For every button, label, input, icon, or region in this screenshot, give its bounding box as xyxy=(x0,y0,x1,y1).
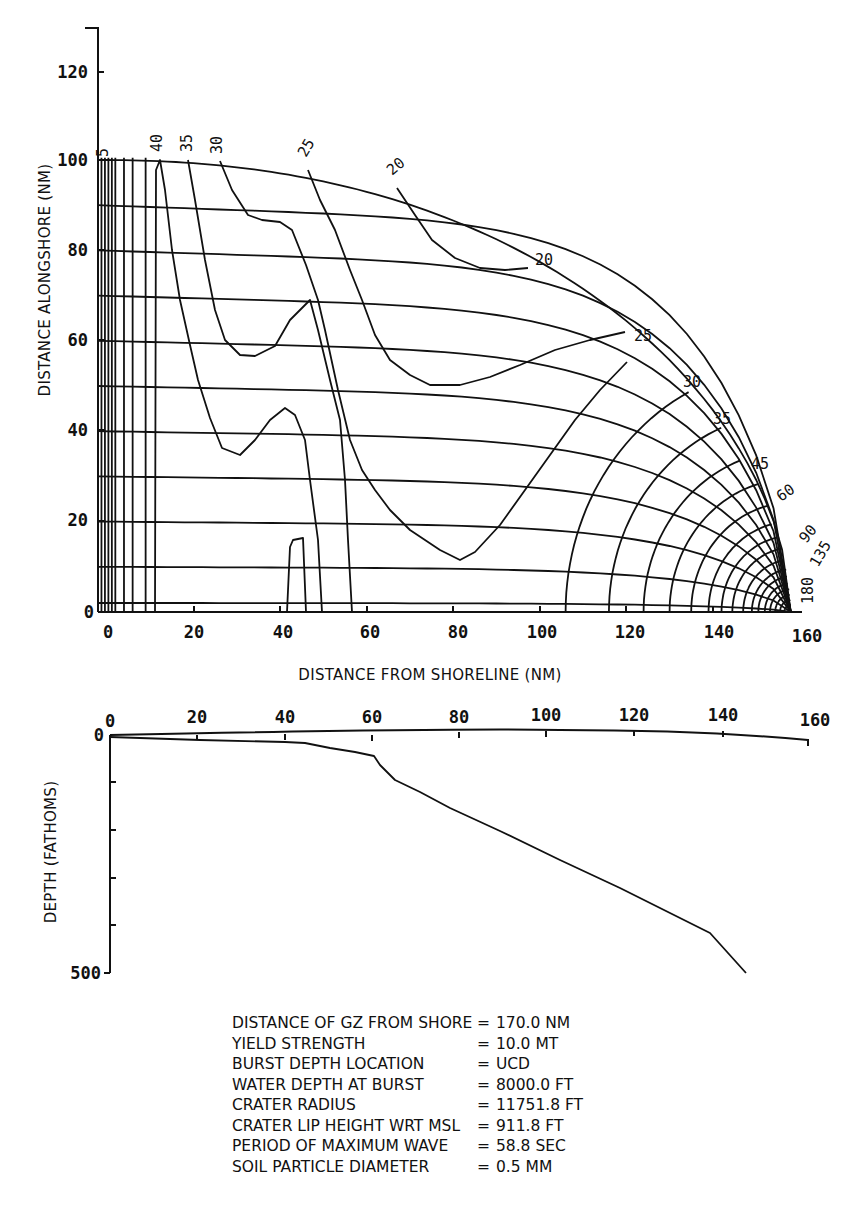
param-row: CRATER RADIUS= 11751.8 FT xyxy=(232,1095,583,1116)
x-tick-160: 160 xyxy=(792,626,823,646)
x-tick-40: 40 xyxy=(273,622,293,642)
depth-x-tick-140: 140 xyxy=(708,705,739,725)
top-chart-axes xyxy=(85,28,802,612)
param-equals: = xyxy=(477,1095,491,1116)
y-tick-60: 60 xyxy=(68,330,88,350)
contour-20 xyxy=(397,188,528,270)
y-tick-0: 0 xyxy=(84,602,94,622)
contour-40 xyxy=(155,160,322,612)
y-tick-120: 120 xyxy=(57,62,88,82)
depth-x-tick-0: 0 xyxy=(105,711,115,731)
contour-25 xyxy=(308,170,625,385)
contour-bump xyxy=(287,538,306,612)
param-equals: = xyxy=(477,1013,491,1034)
y-tick-80: 80 xyxy=(68,240,88,260)
depth-y-tick-500: 500 xyxy=(70,963,101,983)
arc-label-35: 35 xyxy=(713,410,731,428)
param-row: WATER DEPTH AT BURST= 8000.0 FT xyxy=(232,1075,583,1096)
arc-label-180: 180 xyxy=(799,577,817,604)
label-5: 5 xyxy=(94,148,112,157)
param-name: BURST DEPTH LOCATION xyxy=(232,1054,477,1075)
arc-label-20: 20 xyxy=(535,251,553,269)
top-y-tick-labels: 120 100 80 60 40 20 0 xyxy=(57,62,94,622)
param-name: SOIL PARTICLE DIAMETER xyxy=(232,1157,477,1178)
depth-x-tick-160: 160 xyxy=(800,710,831,730)
param-name: PERIOD OF MAXIMUM WAVE xyxy=(232,1136,477,1157)
label-35: 35 xyxy=(178,134,196,152)
param-name: WATER DEPTH AT BURST xyxy=(232,1075,477,1096)
x-tick-80: 80 xyxy=(448,622,468,642)
param-value: 58.8 SEC xyxy=(496,1136,566,1157)
arc-contour-labels: 20 25 30 35 45 60 90 135 180 xyxy=(535,251,835,604)
depth-chart-axes xyxy=(104,730,808,973)
param-equals: = xyxy=(477,1116,491,1137)
param-value: 11751.8 FT xyxy=(496,1095,583,1116)
param-name: YIELD STRENGTH xyxy=(232,1034,477,1055)
param-name: DISTANCE OF GZ FROM SHORE xyxy=(232,1013,477,1034)
top-contour-labels: 5 40 35 30 25 20 xyxy=(94,134,408,179)
param-name: CRATER RADIUS xyxy=(232,1095,477,1116)
depth-x-tick-20: 20 xyxy=(187,707,207,727)
depth-x-tick-100: 100 xyxy=(531,705,562,725)
label-25: 25 xyxy=(294,135,319,160)
arc-label-30: 30 xyxy=(683,373,701,391)
top-x-axis-title: DISTANCE FROM SHORELINE (NM) xyxy=(298,666,561,684)
x-tick-60: 60 xyxy=(360,622,380,642)
y-tick-100: 100 xyxy=(57,150,88,170)
param-value: 10.0 MT xyxy=(496,1034,558,1055)
param-value: 911.8 FT xyxy=(496,1116,563,1137)
contour-35 xyxy=(188,160,352,612)
label-30: 30 xyxy=(208,136,226,154)
arc-label-25: 25 xyxy=(634,327,652,345)
arc-label-60: 60 xyxy=(773,480,798,505)
y-tick-20: 20 xyxy=(68,510,88,530)
param-equals: = xyxy=(477,1075,491,1096)
param-row: CRATER LIP HEIGHT WRT MSL= 911.8 FT xyxy=(232,1116,583,1137)
param-row: PERIOD OF MAXIMUM WAVE= 58.8 SEC xyxy=(232,1136,583,1157)
param-row: SOIL PARTICLE DIAMETER= 0.5 MM xyxy=(232,1157,583,1178)
label-40: 40 xyxy=(148,134,166,152)
param-name: CRATER LIP HEIGHT WRT MSL xyxy=(232,1116,477,1137)
depth-x-tick-120: 120 xyxy=(619,705,650,725)
figure: 120 100 80 60 40 20 0 0 20 40 60 80 100 … xyxy=(0,0,859,1214)
label-20: 20 xyxy=(383,154,408,179)
depth-x-tick-40: 40 xyxy=(275,707,295,727)
param-equals: = xyxy=(477,1157,491,1178)
param-row: BURST DEPTH LOCATION= UCD xyxy=(232,1054,583,1075)
depth-x-tick-60: 60 xyxy=(362,707,382,727)
plot-canvas: 120 100 80 60 40 20 0 0 20 40 60 80 100 … xyxy=(0,0,859,1000)
depth-y-axis-title: DEPTH (FATHOMS) xyxy=(42,781,60,924)
x-tick-140: 140 xyxy=(704,622,735,642)
x-tick-20: 20 xyxy=(184,622,204,642)
param-equals: = xyxy=(477,1054,491,1075)
depth-y-tick-0: 0 xyxy=(94,725,104,745)
wave-contours xyxy=(155,160,627,612)
param-row: YIELD STRENGTH= 10.0 MT xyxy=(232,1034,583,1055)
param-value: 170.0 NM xyxy=(496,1013,570,1034)
y-tick-40: 40 xyxy=(68,420,88,440)
top-x-tick-labels: 0 20 40 60 80 100 120 140 160 xyxy=(103,622,822,646)
param-value: 0.5 MM xyxy=(496,1157,552,1178)
param-row: DISTANCE OF GZ FROM SHORE= 170.0 NM xyxy=(232,1013,583,1034)
param-value: UCD xyxy=(496,1054,530,1075)
param-equals: = xyxy=(477,1136,491,1157)
top-y-axis-title: DISTANCE ALONGSHORE (NM) xyxy=(36,164,54,397)
arc-label-45: 45 xyxy=(751,455,769,473)
x-tick-100: 100 xyxy=(527,622,558,642)
x-tick-0: 0 xyxy=(103,622,113,642)
param-equals: = xyxy=(477,1034,491,1055)
depth-x-tick-80: 80 xyxy=(449,707,469,727)
parameter-list: DISTANCE OF GZ FROM SHORE= 170.0 NM YIEL… xyxy=(232,1013,583,1177)
x-tick-120: 120 xyxy=(615,622,646,642)
param-value: 8000.0 FT xyxy=(496,1075,573,1096)
depth-profile-line xyxy=(110,737,746,973)
